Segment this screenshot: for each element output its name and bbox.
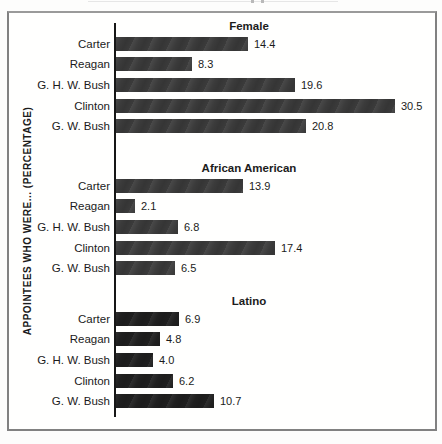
- bar: [116, 179, 243, 193]
- value-label: 6.9: [185, 312, 200, 326]
- value-label: 8.3: [198, 57, 213, 71]
- bar: [116, 57, 192, 71]
- cropped-text-artifact: [251, 0, 254, 3]
- category-label: Carter: [14, 179, 110, 193]
- category-label: G. W. Bush: [14, 119, 110, 133]
- bar: [116, 312, 179, 326]
- category-label: G. H. W. Bush: [14, 220, 110, 234]
- category-label: G. W. Bush: [14, 394, 110, 408]
- category-label: Reagan: [14, 57, 110, 71]
- bar: [116, 353, 153, 367]
- value-label: 6.8: [184, 220, 199, 234]
- value-label: 19.6: [301, 78, 322, 92]
- group-title: African American: [116, 162, 382, 174]
- category-label: Reagan: [14, 199, 110, 213]
- category-label: G. W. Bush: [14, 261, 110, 275]
- value-label: 17.4: [281, 241, 302, 255]
- category-label: G. H. W. Bush: [14, 353, 110, 367]
- bar: [116, 37, 248, 51]
- category-label: Clinton: [14, 99, 110, 113]
- bar: [116, 394, 214, 408]
- bar: [116, 78, 295, 92]
- bar: [116, 332, 160, 346]
- category-label: Reagan: [14, 332, 110, 346]
- value-label: 10.7: [220, 394, 241, 408]
- group-title: Female: [116, 20, 382, 32]
- cropped-text-artifact: [88, 1, 338, 2]
- bar: [116, 261, 175, 275]
- value-label: 6.5: [181, 261, 196, 275]
- bar: [116, 119, 306, 133]
- category-label: G. H. W. Bush: [14, 78, 110, 92]
- value-label: 20.8: [312, 119, 333, 133]
- bar: [116, 241, 275, 255]
- value-label: 2.1: [141, 199, 156, 213]
- bar: [116, 199, 135, 213]
- bar: [116, 99, 395, 113]
- bar: [116, 374, 173, 388]
- group-title: Latino: [116, 295, 382, 307]
- bar: [116, 220, 178, 234]
- category-label: Clinton: [14, 374, 110, 388]
- value-label: 30.5: [401, 99, 422, 113]
- cropped-text-artifact: [261, 0, 264, 3]
- value-label: 13.9: [249, 179, 270, 193]
- figure-canvas: APPOINTEES WHO WERE... (PERCENTAGE) Fema…: [0, 0, 442, 444]
- value-label: 14.4: [254, 37, 275, 51]
- category-label: Carter: [14, 37, 110, 51]
- value-label: 4.0: [159, 353, 174, 367]
- value-label: 4.8: [166, 332, 181, 346]
- category-label: Clinton: [14, 241, 110, 255]
- value-label: 6.2: [179, 374, 194, 388]
- category-label: Carter: [14, 312, 110, 326]
